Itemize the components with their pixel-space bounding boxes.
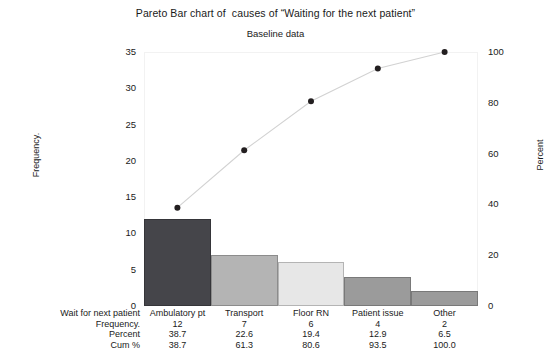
table-row-label: Frequency. (0, 319, 142, 330)
cumulative-point-2[interactable] (241, 147, 247, 153)
cumulative-percent-line (177, 52, 444, 208)
cumulative-point-5[interactable] (442, 49, 448, 55)
table-row-label: Wait for next patient (0, 308, 142, 319)
table-row: Wait for next patientAmbulatory ptTransp… (0, 308, 551, 319)
table-row-label: Percent (0, 329, 142, 340)
pareto-chart: Pareto Bar chart of causes of “Waiting f… (0, 0, 551, 351)
table-cell: 100.0 (399, 340, 490, 351)
cumulative-line-layer (0, 0, 551, 351)
table-cell: 2 (399, 319, 490, 330)
data-table: Wait for next patientAmbulatory ptTransp… (0, 308, 551, 350)
cumulative-point-1[interactable] (174, 205, 180, 211)
table-row: Percent38.722.619.412.96.5 (0, 329, 551, 340)
table-row-label: Cum % (0, 340, 142, 351)
cumulative-point-4[interactable] (375, 66, 381, 72)
table-row: Cum %38.761.380.693.5100.0 (0, 340, 551, 351)
table-category-label: Other (399, 308, 490, 319)
table-row: Frequency.127642 (0, 319, 551, 330)
cumulative-point-3[interactable] (308, 98, 314, 104)
table-cell: 6.5 (399, 329, 490, 340)
